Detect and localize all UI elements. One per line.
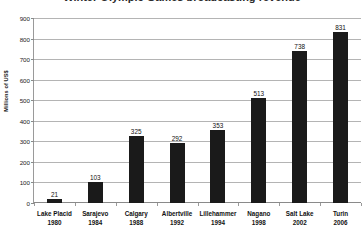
x-label-city: Albertville: [162, 210, 192, 217]
bar-chart: Winter Olympic Games broadcasting revenu…: [0, 0, 364, 235]
y-tick: 300: [34, 141, 35, 142]
y-tick: 900: [34, 18, 35, 19]
y-tick-mark: [31, 80, 34, 81]
y-tick: 200: [34, 162, 35, 163]
x-label-city: Turin: [333, 210, 348, 217]
bar-value-label: 292: [172, 135, 183, 142]
chart-title: Winter Olympic Games broadcasting revenu…: [0, 0, 364, 4]
bar-value-label: 738: [294, 43, 305, 50]
x-tick-mark: [34, 203, 35, 206]
x-label-city: Sarajevo: [82, 210, 108, 217]
gridline: [34, 100, 361, 101]
bar-value-label: 21: [51, 191, 58, 198]
gridline: [34, 59, 361, 60]
bar[interactable]: 325: [129, 136, 144, 203]
x-tick-label: Turin2006: [313, 209, 364, 227]
y-tick-label: 0: [0, 200, 30, 207]
y-tick-label: 100: [0, 179, 30, 186]
bar-value-label: 325: [131, 128, 142, 135]
y-tick-label: 700: [0, 56, 30, 63]
bar[interactable]: 738: [292, 51, 307, 203]
y-tick-label: 500: [0, 97, 30, 104]
y-tick-label: 200: [0, 158, 30, 165]
y-tick-mark: [31, 59, 34, 60]
bar[interactable]: 292: [170, 143, 185, 203]
x-tick-mark: [238, 203, 239, 206]
bar[interactable]: 831: [333, 32, 348, 203]
y-tick-mark: [31, 162, 34, 163]
gridline: [34, 141, 361, 142]
y-tick-mark: [31, 121, 34, 122]
y-tick-label: 400: [0, 117, 30, 124]
x-tick-mark: [320, 203, 321, 206]
x-tick-mark: [75, 203, 76, 206]
y-tick-label: 900: [0, 15, 30, 22]
bar-value-label: 831: [335, 24, 346, 31]
y-tick-label: 800: [0, 35, 30, 42]
gridline: [34, 18, 361, 19]
bar[interactable]: 103: [88, 182, 103, 203]
gridline: [34, 182, 361, 183]
y-tick-mark: [31, 100, 34, 101]
plot-area: 010020030040050060070080090021Lake Placi…: [33, 18, 361, 203]
gridline: [34, 80, 361, 81]
y-tick-mark: [31, 39, 34, 40]
y-tick: 600: [34, 80, 35, 81]
y-tick-label: 600: [0, 76, 30, 83]
y-tick-mark: [31, 182, 34, 183]
y-tick: 400: [34, 121, 35, 122]
gridline: [34, 162, 361, 163]
y-tick: 800: [34, 39, 35, 40]
x-tick-mark: [157, 203, 158, 206]
x-tick-mark: [279, 203, 280, 206]
bar[interactable]: 21: [47, 199, 62, 203]
gridline: [34, 121, 361, 122]
bar-value-label: 103: [90, 174, 101, 181]
y-axis-title: Millions of US$: [3, 61, 9, 121]
bar-value-label: 353: [213, 122, 224, 129]
x-tick-mark: [198, 203, 199, 206]
y-tick: 100: [34, 182, 35, 183]
x-label-city: Calgary: [125, 210, 148, 217]
x-tick-mark: [116, 203, 117, 206]
bar-value-label: 513: [253, 90, 264, 97]
y-tick: 700: [34, 59, 35, 60]
y-tick-label: 300: [0, 138, 30, 145]
bar[interactable]: 513: [251, 98, 266, 203]
gridline: [34, 39, 361, 40]
y-tick-mark: [31, 141, 34, 142]
x-label-city: Nagano: [247, 210, 270, 217]
bar[interactable]: 353: [210, 130, 225, 203]
x-tick-mark: [361, 203, 362, 206]
y-tick: 500: [34, 100, 35, 101]
x-label-city: Salt Lake: [286, 210, 314, 217]
y-tick-mark: [31, 18, 34, 19]
x-label-year: 2006: [313, 218, 364, 227]
